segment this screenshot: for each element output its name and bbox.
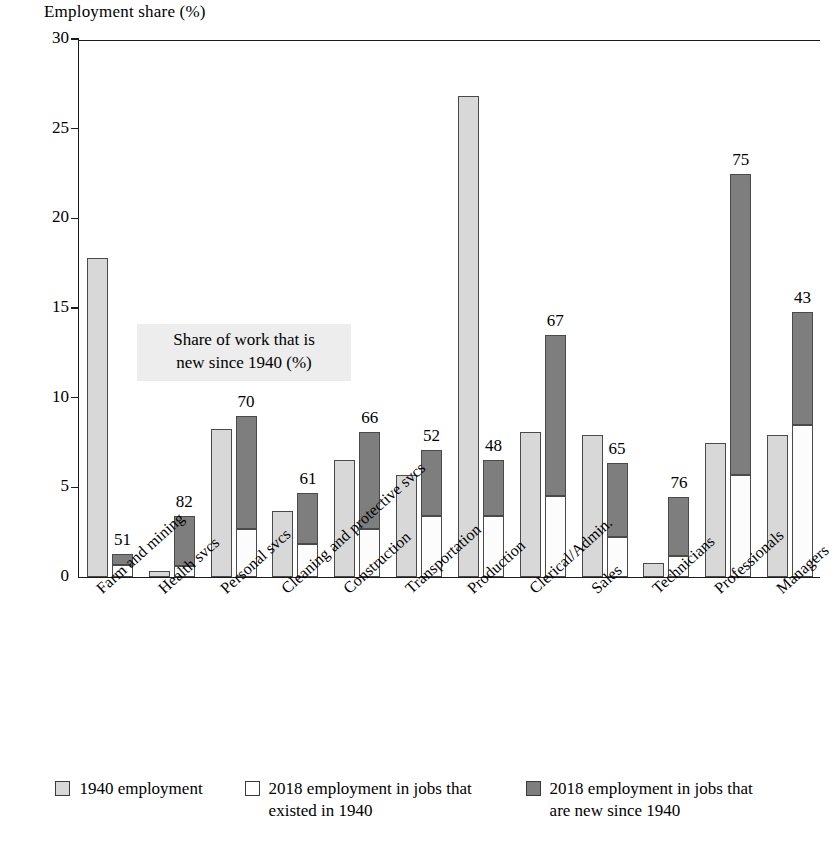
bar-2018-stack-11[interactable] [792,312,813,577]
bar-2018-new-3[interactable] [297,493,318,544]
bar-2018-new-6[interactable] [483,460,504,516]
new-share-label-10: 75 [732,150,749,170]
annotation-box: Share of work that is new since 1940 (%) [137,324,351,381]
bar-2018-new-9[interactable] [668,497,689,556]
new-share-label-1: 82 [176,492,193,512]
bar-1940-6[interactable] [458,96,479,577]
new-share-label-5: 52 [423,426,440,446]
bar-1940-8[interactable] [582,435,603,577]
y-tick-label: 5 [61,476,70,496]
bar-group: 43 [767,41,813,577]
legend-item-1[interactable]: 2018 employment in jobs that existed in … [245,778,484,822]
new-share-label-2: 70 [238,392,255,412]
new-share-label-8: 65 [609,439,626,459]
y-tick-mark [71,128,79,130]
legend-label-2: 2018 employment in jobs that are new sin… [550,778,765,822]
bar-1940-11[interactable] [767,435,788,577]
y-tick-mark [71,38,79,40]
bar-2018-stack-10[interactable] [730,174,751,578]
bars-layer: 518270616652486765767543 [79,41,820,577]
y-tick-label: 20 [52,207,69,227]
y-tick-label: 15 [52,297,69,317]
y-axis-title: Employment share (%) [44,2,206,22]
y-tick-mark [71,307,79,309]
bar-group: 70 [211,41,257,577]
legend-swatch-icon-0 [55,781,70,796]
new-share-label-6: 48 [485,436,502,456]
bar-2018-stack-7[interactable] [545,335,566,577]
legend-item-2[interactable]: 2018 employment in jobs that are new sin… [526,778,765,822]
new-share-label-0: 51 [114,530,131,550]
annotation-line-1: Share of work that is [143,328,345,351]
bar-group: 61 [272,41,318,577]
y-tick-label: 0 [61,566,70,586]
y-tick-label: 30 [52,28,69,48]
y-tick-mark [71,397,79,399]
bar-group: 48 [458,41,504,577]
legend-item-0[interactable]: 1940 employment [55,778,202,800]
bar-group: 51 [87,41,133,577]
bar-group: 82 [149,41,195,577]
legend-swatch-icon-2 [526,781,541,796]
y-tick-label: 25 [52,118,69,138]
plot-area: 051015202530 518270616652486765767543 [78,40,820,578]
legend-swatch-icon-1 [245,781,260,796]
bar-2018-new-2[interactable] [236,416,257,529]
bar-1940-0[interactable] [87,258,108,577]
bar-group: 52 [396,41,442,577]
bar-group: 75 [705,41,751,577]
legend-label-1: 2018 employment in jobs that existed in … [269,778,484,822]
new-share-label-3: 61 [299,469,316,489]
bar-2018-new-7[interactable] [545,335,566,496]
bar-group: 76 [643,41,689,577]
bar-group: 65 [582,41,628,577]
bar-2018-new-5[interactable] [421,450,442,516]
x-axis-labels: Farm and miningHealth svcsPersonal svcsC… [78,578,820,718]
new-share-label-4: 66 [361,408,378,428]
new-share-label-7: 67 [547,311,564,331]
y-tick-label: 10 [52,387,69,407]
new-share-label-9: 76 [670,473,687,493]
annotation-line-2: new since 1940 (%) [143,351,345,374]
new-share-label-11: 43 [794,288,811,308]
bar-1940-7[interactable] [520,432,541,577]
y-tick-mark [71,487,79,489]
y-tick-mark [71,218,79,220]
legend-label-0: 1940 employment [79,778,202,800]
bar-group: 67 [520,41,566,577]
bar-1940-10[interactable] [705,443,726,578]
chart-legend: 1940 employment2018 employment in jobs t… [0,778,820,822]
bar-2018-new-10[interactable] [730,174,751,475]
bar-2018-new-11[interactable] [792,312,813,425]
